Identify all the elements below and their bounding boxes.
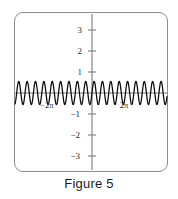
y-tick-label-2: 2: [68, 47, 82, 56]
x-tick-label-2pi: 2π: [111, 101, 137, 110]
y-tick-label-neg1: −1: [66, 110, 80, 119]
y-tick-label-neg3: −3: [66, 152, 80, 161]
y-tick-label-neg2: −2: [66, 131, 80, 140]
plot-canvas: [14, 12, 168, 172]
figure-container: 3 2 1 −1 −2 −3 −2π 2π Figure 5: [0, 0, 178, 199]
figure-caption: Figure 5: [0, 176, 178, 191]
y-tick-label-3: 3: [68, 26, 82, 35]
x-tick-label-neg-2pi: −2π: [34, 101, 60, 110]
y-tick-label-1: 1: [68, 68, 82, 77]
